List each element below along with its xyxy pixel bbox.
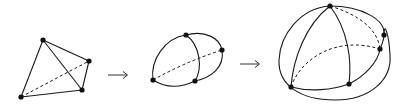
vertex	[346, 81, 351, 86]
edge	[43, 40, 89, 61]
edge	[153, 35, 186, 80]
edge	[186, 33, 222, 50]
vertex	[150, 77, 155, 82]
sphere-subdivision	[279, 3, 390, 100]
vertex	[79, 87, 84, 92]
curved-cell	[150, 32, 224, 86]
vertex	[219, 47, 224, 52]
vertex	[192, 78, 197, 83]
edge	[291, 84, 349, 90]
edge	[186, 35, 199, 81]
tetrahedron	[18, 37, 91, 99]
vertex	[18, 94, 23, 99]
vertex	[86, 58, 91, 63]
diagram-canvas	[0, 0, 404, 110]
edge	[279, 6, 390, 100]
edge	[153, 80, 195, 86]
edge	[21, 40, 43, 97]
edge	[349, 49, 380, 84]
edge	[82, 61, 89, 90]
edge	[330, 6, 384, 35]
vertex	[377, 46, 382, 51]
arrow-icon	[108, 72, 128, 79]
hidden-edge	[291, 45, 380, 87]
edge	[330, 6, 350, 84]
edge	[21, 90, 82, 97]
vertex	[327, 3, 332, 8]
hidden-edge	[21, 61, 89, 97]
vertex	[40, 37, 45, 42]
vertex	[288, 84, 293, 89]
edge	[43, 40, 82, 90]
hidden-edge	[330, 6, 380, 49]
vertex	[381, 32, 386, 37]
hidden-edge	[153, 50, 222, 80]
arrow-icon	[240, 61, 260, 68]
vertex	[183, 32, 188, 37]
